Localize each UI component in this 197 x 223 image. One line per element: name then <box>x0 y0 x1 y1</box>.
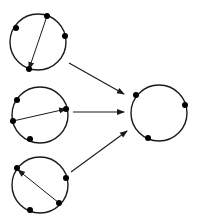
transition-arrow <box>69 63 124 94</box>
chord-arrow <box>13 109 66 121</box>
point-dot <box>26 66 32 72</box>
circle-merge-diagram <box>0 0 197 223</box>
circle-bottom <box>12 157 69 213</box>
point-dot <box>133 92 139 98</box>
chord-arrow <box>29 16 47 69</box>
point-dot <box>14 165 20 171</box>
point-dot <box>27 207 33 213</box>
point-dot <box>13 25 19 31</box>
point-dot <box>62 33 68 39</box>
source-circles <box>10 13 69 213</box>
result-circle-group <box>131 85 188 141</box>
point-dot <box>56 200 62 206</box>
point-dot <box>182 102 188 108</box>
chord-arrow <box>18 170 59 203</box>
circle-middle <box>10 87 69 143</box>
circle-outline <box>131 85 187 141</box>
point-dot <box>10 118 16 124</box>
point-dot <box>14 97 20 103</box>
transition-arrows <box>69 63 127 172</box>
point-dot <box>44 13 50 19</box>
point-dot <box>63 175 69 181</box>
point-dot <box>27 136 33 142</box>
transition-arrow <box>71 131 127 172</box>
circle-result <box>131 85 188 141</box>
circle-top <box>10 13 68 72</box>
point-dot <box>145 135 151 141</box>
point-dot <box>63 106 69 112</box>
